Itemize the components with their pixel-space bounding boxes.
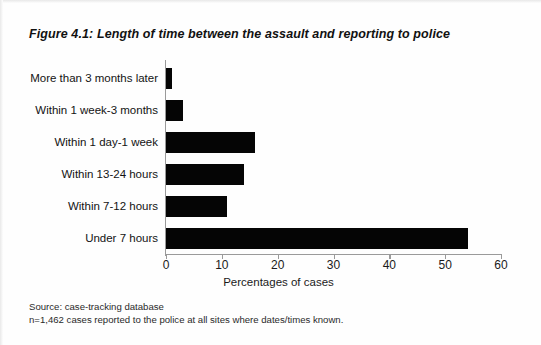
category-axis-labels: More than 3 months laterWithin 1 week-3 … <box>0 62 158 254</box>
bar-3 <box>166 132 255 153</box>
figure-title-text: Length of time between the assault and r… <box>97 27 450 41</box>
bar-fill <box>166 100 183 121</box>
figure-number: Figure 4.1: <box>29 27 97 41</box>
x-axis-title: Percentages of cases <box>0 276 541 288</box>
bar-fill <box>166 68 172 89</box>
footnote: Source: case-tracking database n=1,462 c… <box>29 300 343 326</box>
x-tick-label-60: 60 <box>494 258 507 272</box>
x-axis-tick-labels: 0102030405060 <box>0 258 541 274</box>
category-label-2: Within 1 week-3 months <box>35 100 158 121</box>
plot-area <box>166 62 501 254</box>
bar-4 <box>166 164 244 185</box>
bar-5 <box>166 196 227 217</box>
bar-2 <box>166 100 183 121</box>
bar-fill <box>166 196 227 217</box>
x-axis-title-text: Percentages of cases <box>223 276 334 288</box>
category-label-6: Under 7 hours <box>85 228 158 249</box>
category-label-1: More than 3 months later <box>30 68 158 89</box>
x-tick-label-0: 0 <box>163 258 170 272</box>
scan-edge-top <box>0 0 541 3</box>
bar-1 <box>166 68 172 89</box>
category-label-4: Within 13-24 hours <box>61 164 158 185</box>
x-tick-label-10: 10 <box>215 258 228 272</box>
bar-fill <box>166 132 255 153</box>
footnote-source: Source: case-tracking database <box>29 300 343 313</box>
category-label-3: Within 1 day-1 week <box>54 132 158 153</box>
footnote-sample: n=1,462 cases reported to the police at … <box>29 313 343 326</box>
bar-fill <box>166 228 468 249</box>
x-tick-label-20: 20 <box>271 258 284 272</box>
x-tick-label-30: 30 <box>327 258 340 272</box>
bar-6 <box>166 228 468 249</box>
x-tick-label-50: 50 <box>438 258 451 272</box>
figure-page: Figure 4.1:Length of time between the as… <box>0 0 541 345</box>
category-label-5: Within 7-12 hours <box>68 196 158 217</box>
bar-chart: More than 3 months laterWithin 1 week-3 … <box>0 58 541 258</box>
x-tick-label-40: 40 <box>383 258 396 272</box>
page-title: Figure 4.1:Length of time between the as… <box>29 27 450 41</box>
bar-fill <box>166 164 244 185</box>
